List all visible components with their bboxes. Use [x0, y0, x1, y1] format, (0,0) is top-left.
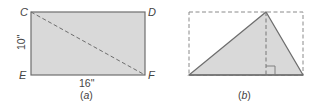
vertex-label-d: D: [148, 6, 156, 18]
caption-b: (b): [238, 89, 251, 101]
vertex-label-c: C: [20, 6, 28, 18]
panel-b: (b): [189, 12, 303, 101]
figure: C D E F 10" 16" (a) (b): [0, 0, 318, 104]
triangle: [189, 12, 303, 75]
panel-a: C D E F 10" 16" (a): [15, 6, 156, 101]
width-dimension-label: 16": [79, 77, 95, 89]
vertex-label-e: E: [19, 69, 27, 81]
height-dimension-label: 10": [15, 34, 27, 50]
vertex-label-f: F: [148, 69, 156, 81]
caption-a: (a): [80, 89, 93, 101]
